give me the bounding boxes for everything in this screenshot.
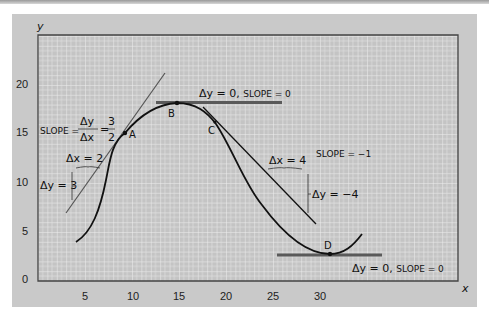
- slope-a-dy: Δy: [80, 115, 95, 128]
- y-tick: 20: [16, 78, 28, 90]
- point-b-label: B: [168, 108, 175, 119]
- point-a-marker: [123, 131, 127, 135]
- point-d-label: D: [324, 240, 332, 251]
- x-tick: 15: [173, 290, 185, 302]
- dx-a-label: Δx = 2: [66, 152, 103, 165]
- y-tick: 15: [16, 126, 28, 138]
- y-axis-label: y: [36, 20, 44, 33]
- chart-svg: y x 20 15 10 5 0 5 10 15 20 25 30 A B C …: [0, 0, 489, 324]
- slope-a-prefix: SLOPE =: [40, 126, 79, 136]
- c-slope-label: SLOPE = −1: [316, 149, 371, 159]
- slope-a-num: 3: [108, 115, 115, 128]
- d-label: Δy = 0, SLOPE = 0: [352, 262, 444, 275]
- x-tick: 25: [267, 290, 279, 302]
- x-ticks: 5 10 15 20 25 30: [82, 290, 326, 302]
- x-axis-label: x: [461, 282, 469, 295]
- point-c-marker: [213, 120, 216, 123]
- y-ticks: 20 15 10 5 0: [16, 78, 28, 285]
- point-c-label: C: [208, 125, 215, 136]
- b-label: Δy = 0, SLOPE = 0: [199, 87, 291, 100]
- y-tick: 10: [16, 176, 28, 188]
- point-b-marker: [175, 101, 179, 105]
- dx-c-label: Δx = 4: [269, 154, 306, 167]
- x-tick: 20: [220, 290, 232, 302]
- dy-c-label: Δy = −4: [312, 188, 358, 201]
- x-tick: 10: [127, 290, 139, 302]
- slope-a-den: 2: [108, 131, 115, 144]
- x-tick: 30: [314, 290, 326, 302]
- y-tick: 0: [22, 273, 28, 285]
- y-tick: 5: [22, 225, 28, 237]
- x-tick: 5: [82, 290, 88, 302]
- point-d-marker: [328, 252, 332, 256]
- point-a-label: A: [129, 129, 136, 140]
- slope-a-dx: Δx: [80, 131, 95, 144]
